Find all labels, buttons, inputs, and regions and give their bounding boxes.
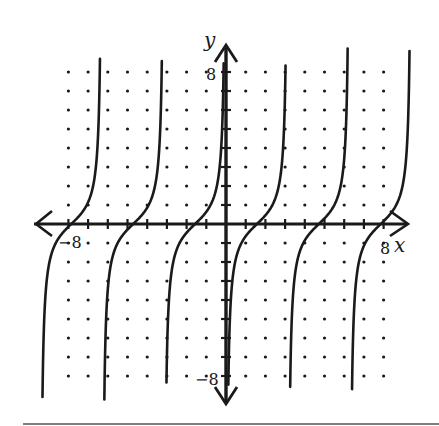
grid-dot	[185, 89, 188, 92]
grid-dot	[185, 203, 188, 206]
grid-dot	[126, 165, 129, 168]
grid-dot	[362, 89, 365, 92]
grid-dot	[126, 146, 129, 149]
grid-dot	[87, 146, 90, 149]
grid-dot	[343, 374, 346, 377]
grid-dot	[67, 336, 70, 339]
grid-dot	[343, 70, 346, 73]
grid-dot	[382, 374, 385, 377]
grid-dot	[146, 241, 149, 244]
grid-dot	[146, 355, 149, 358]
grid-dot	[244, 260, 247, 263]
grid-dot	[362, 279, 365, 282]
grid-dot	[87, 127, 90, 130]
grid-dot	[165, 70, 168, 73]
grid-dot	[205, 184, 208, 187]
grid-dot	[362, 317, 365, 320]
grid-dot	[106, 355, 109, 358]
grid-dot	[67, 374, 70, 377]
grid-dot	[185, 241, 188, 244]
curve-branch	[42, 59, 99, 397]
grid-dot	[244, 336, 247, 339]
grid-dot	[362, 336, 365, 339]
grid-dot	[67, 317, 70, 320]
grid-dot	[165, 279, 168, 282]
grid-dot	[165, 184, 168, 187]
grid-dot	[303, 298, 306, 301]
grid-dot	[323, 70, 326, 73]
grid-dot	[382, 70, 385, 73]
grid-dot	[106, 89, 109, 92]
grid-dot	[343, 279, 346, 282]
grid-dot	[165, 241, 168, 244]
grid-dot	[264, 203, 267, 206]
grid-dot	[244, 127, 247, 130]
grid-dot	[87, 317, 90, 320]
grid-dot	[244, 89, 247, 92]
grid-dot	[343, 260, 346, 263]
grid-dot	[284, 165, 287, 168]
grid-dot	[205, 355, 208, 358]
grid-dot	[126, 374, 129, 377]
grid-dot	[343, 203, 346, 206]
grid-dot	[362, 70, 365, 73]
grid-dot	[67, 146, 70, 149]
y-min-tick-label: −8	[195, 370, 219, 389]
grid-dot	[343, 241, 346, 244]
grid-dot	[264, 184, 267, 187]
grid-dot	[126, 260, 129, 263]
grid-dot	[87, 70, 90, 73]
grid-dot	[165, 127, 168, 130]
grid-dot	[146, 184, 149, 187]
x-min-tick-label: −8	[58, 233, 82, 252]
grid-dot	[146, 127, 149, 130]
grid-dot	[165, 203, 168, 206]
grid-dot	[303, 165, 306, 168]
grid-dot	[323, 89, 326, 92]
grid-dot	[323, 241, 326, 244]
grid-dot	[362, 108, 365, 111]
grid-dot	[185, 260, 188, 263]
grid-dot	[87, 260, 90, 263]
grid-dot	[106, 260, 109, 263]
grid-dot	[185, 279, 188, 282]
grid-dot	[205, 336, 208, 339]
grid-dot	[185, 165, 188, 168]
grid-dot	[244, 70, 247, 73]
grid-dot	[264, 165, 267, 168]
grid-dot	[244, 317, 247, 320]
grid-dot	[146, 260, 149, 263]
grid-dot	[362, 260, 365, 263]
grid-dot	[146, 146, 149, 149]
grid-dot	[244, 108, 247, 111]
grid-dot	[323, 355, 326, 358]
grid-dot	[205, 89, 208, 92]
grid-dot	[284, 203, 287, 206]
grid-dot	[343, 336, 346, 339]
grid-dot	[244, 355, 247, 358]
grid-dot	[244, 203, 247, 206]
grid-dot	[284, 241, 287, 244]
grid-dot	[126, 317, 129, 320]
grid-dot	[382, 184, 385, 187]
grid-dot	[382, 317, 385, 320]
grid-dot	[67, 203, 70, 206]
grid-dot	[87, 241, 90, 244]
grid-dot	[205, 241, 208, 244]
grid-dot	[264, 298, 267, 301]
grid-dot	[87, 165, 90, 168]
y-max-tick-label: 8	[206, 65, 216, 84]
grid-dot	[362, 127, 365, 130]
grid-dot	[146, 279, 149, 282]
grid-dot	[284, 260, 287, 263]
grid-dot	[382, 89, 385, 92]
grid-dot	[165, 146, 168, 149]
grid-dot	[165, 108, 168, 111]
grid-dot	[323, 317, 326, 320]
grid-dot	[205, 203, 208, 206]
grid-dot	[205, 108, 208, 111]
grid-dot	[67, 355, 70, 358]
grid-dot	[244, 184, 247, 187]
grid-dot	[244, 279, 247, 282]
grid-dot	[343, 184, 346, 187]
